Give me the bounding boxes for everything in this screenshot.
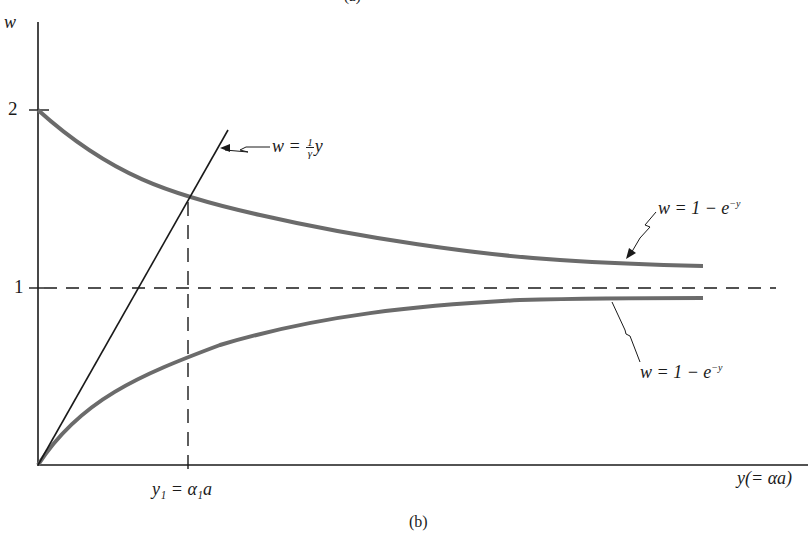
upper-label-leader	[630, 212, 656, 255]
y-axis-label: w	[4, 12, 16, 33]
diagram-canvas	[0, 0, 810, 537]
x-axis-label: y(= αa)	[737, 468, 792, 489]
y-tick-label-2: 2	[8, 98, 18, 120]
lower-label-leader	[612, 302, 640, 362]
fraction: 1γ	[306, 137, 314, 158]
x-marker-label: y₁ = α₁a	[152, 479, 212, 500]
line-w-y-over-gamma	[38, 130, 228, 465]
lower-curve-label: w = 1 − e−y	[640, 362, 722, 383]
arrowhead-icon	[626, 248, 636, 259]
upper-curve-label: w = 1 − e−y	[658, 198, 740, 219]
line-label-leader	[225, 147, 270, 152]
figure-caption: (b)	[409, 513, 428, 531]
arrowhead-icon	[220, 144, 230, 152]
upper-curve	[38, 110, 703, 266]
line-label: w = 1γy	[272, 136, 323, 158]
top-caption-partial: (a)	[344, 0, 361, 5]
y-tick-label-1: 1	[14, 276, 24, 298]
lower-curve	[38, 298, 703, 465]
